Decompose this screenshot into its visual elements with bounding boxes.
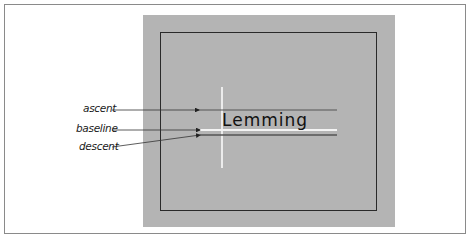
sample-text: Lemming xyxy=(222,111,308,130)
descent-label: descent xyxy=(79,140,119,152)
descent-arrow xyxy=(112,135,200,147)
baseline-label: baseline xyxy=(76,122,118,134)
ascent-label: ascent xyxy=(83,102,116,114)
